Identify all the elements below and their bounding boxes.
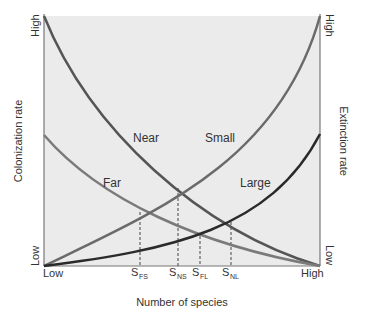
y-right-title: Extinction rate	[338, 106, 350, 176]
y-left-title: Colonization rate	[12, 100, 24, 183]
far-label: Far	[103, 176, 121, 190]
island-biogeography-diagram: Near Small Far Large S FS S NS S FL S NL…	[0, 0, 366, 309]
y-left-low-label: Low	[29, 246, 41, 266]
svg-text:S: S	[131, 266, 138, 278]
s-fl-label: S FL	[192, 266, 208, 280]
x-low-label: Low	[43, 267, 63, 279]
near-label: Near	[133, 131, 159, 145]
x-high-label: High	[301, 267, 324, 279]
svg-text:S: S	[222, 266, 229, 278]
svg-text:S: S	[192, 266, 199, 278]
svg-text:FS: FS	[139, 273, 148, 280]
small-label: Small	[205, 131, 235, 145]
s-nl-label: S NL	[222, 266, 239, 280]
large-label: Large	[240, 176, 271, 190]
y-right-low-label: Low	[324, 245, 336, 265]
svg-text:FL: FL	[200, 273, 208, 280]
x-axis-title: Number of species	[136, 296, 228, 308]
svg-text:S: S	[169, 266, 176, 278]
y-left-high-label: High	[29, 14, 41, 37]
svg-text:NS: NS	[177, 273, 187, 280]
y-right-high-label: High	[324, 14, 336, 37]
s-ns-label: S NS	[169, 266, 187, 280]
s-fs-label: S FS	[131, 266, 148, 280]
svg-text:NL: NL	[230, 273, 239, 280]
